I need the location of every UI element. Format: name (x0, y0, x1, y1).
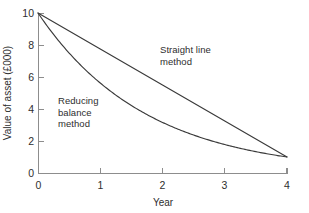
y-tick-label-8: 8 (28, 39, 34, 51)
x-tick-label-0: 0 (36, 179, 42, 191)
y-axis-ticks (39, 14, 45, 142)
x-axis-title: Year (153, 197, 174, 208)
y-tick-label-4: 4 (28, 103, 34, 115)
y-axis-tick-labels: 10 8 6 4 2 0 (22, 7, 34, 179)
y-axis-title: Value of asset (£000) (2, 46, 13, 140)
x-tick-label-3: 3 (222, 179, 228, 191)
x-axis-tick-labels: 0 1 2 3 4 (36, 179, 291, 191)
x-tick-label-4: 4 (284, 179, 290, 191)
annotation-reducing-balance-method: Reducing balance method (58, 95, 99, 130)
y-tick-label-10: 10 (22, 7, 34, 19)
x-axis-ticks (39, 168, 288, 174)
y-tick-label-2: 2 (28, 135, 34, 147)
chart-canvas: 10 8 6 4 2 0 0 1 2 3 4 Year Value of ass… (0, 0, 309, 213)
x-tick-label-1: 1 (98, 179, 104, 191)
y-tick-label-0: 0 (28, 167, 34, 179)
y-tick-label-6: 6 (28, 71, 34, 83)
x-tick-label-2: 2 (160, 179, 166, 191)
depreciation-chart-figure: 10 8 6 4 2 0 0 1 2 3 4 Year Value of ass… (0, 0, 309, 213)
annotation-straight-line-method: Straight line method (160, 44, 211, 67)
series-line-straight-line-method (38, 13, 287, 157)
